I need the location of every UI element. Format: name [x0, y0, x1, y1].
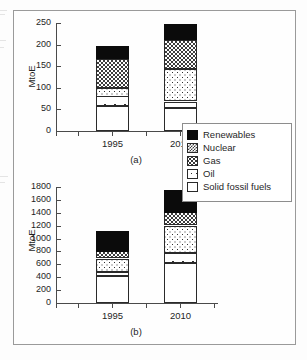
- chart-b-x-tick-label-2010: 2010: [151, 311, 211, 321]
- chart-b-y-tick: [57, 251, 61, 252]
- chart-b-segment-nuclear-2010: [164, 212, 197, 225]
- scan-artifact: [0, 14, 5, 15]
- chart-b-y-tick: [57, 213, 61, 214]
- legend-label-renewables: Renewables: [203, 130, 255, 140]
- chart-a-x-tick: [78, 132, 79, 136]
- chart-b-x-tick: [112, 304, 113, 308]
- chart-a-y-tick-label: 50: [15, 104, 51, 113]
- chart-a-y-tick-label: 0: [15, 126, 51, 135]
- chart-a-bar-2010[interactable]: [164, 23, 197, 131]
- legend-item-solid[interactable]: Solid fossil fuels: [187, 180, 286, 193]
- chart-b-caption: (b): [56, 326, 216, 337]
- chart-b-segment-gas-2010: [164, 226, 197, 253]
- scan-artifact: [0, 40, 6, 41]
- sparse-dot-swatch: [187, 169, 198, 179]
- white-empty-swatch: [187, 182, 198, 192]
- chart-a-segment-solid-1995: [96, 106, 129, 131]
- chart-a-segment-oil-1995: [96, 96, 129, 106]
- chart-a-segment-gas-1995: [96, 88, 129, 97]
- dense-checker-swatch: [187, 143, 198, 153]
- chart-b-x-tick: [78, 304, 79, 308]
- chart-b-y-tick: [57, 290, 61, 291]
- chart-a-y-tick-label: 200: [15, 40, 51, 49]
- chart-a-segment-nuclear-2010: [164, 40, 197, 69]
- chart-b-segment-solid-1995: [96, 276, 129, 303]
- chart-b-x-tick: [180, 304, 181, 308]
- chart-a-segment-oil-2010: [164, 102, 197, 108]
- chart-a-plot-area: 05010015020025019952010: [56, 23, 216, 131]
- chart-a-y-tick: [57, 88, 61, 89]
- chart-b-y-tick-label: 1800: [15, 182, 51, 191]
- chart-a-segment-renewables-1995: [96, 46, 129, 59]
- chart-a-x-tick: [146, 132, 147, 136]
- chart-a-y-tick-label: 150: [15, 61, 51, 70]
- chart-b-y-tick-label: 200: [15, 285, 51, 294]
- chart-b-x-tick-label-1995: 1995: [83, 311, 143, 321]
- legend-label-solid: Solid fossil fuels: [203, 182, 271, 192]
- chart-b-plot-area: 0200400600800100012001400160018001995201…: [56, 187, 216, 303]
- chart-b-segment-oil-2010: [164, 253, 197, 263]
- chart-a-y-tick: [57, 66, 61, 67]
- chart-a-segment-nuclear-1995: [96, 59, 129, 88]
- dot-grid-swatch: [187, 156, 198, 166]
- chart-a-segment-renewables-2010: [164, 24, 197, 40]
- chart-a-y-tick: [57, 23, 61, 24]
- chart-b-y-tick-label: 800: [15, 246, 51, 255]
- chart-b-y-tick-label: 1200: [15, 221, 51, 230]
- chart-a-y-tick-label: 100: [15, 83, 51, 92]
- chart-b-segment-renewables-1995: [96, 231, 129, 252]
- chart-a-x-tick: [112, 132, 113, 136]
- chart-a-y-tick: [57, 45, 61, 46]
- legend-label-gas: Gas: [203, 156, 220, 166]
- black-solid-swatch: [187, 130, 198, 140]
- chart-b-x-axis: [56, 303, 218, 304]
- chart-b-y-tick-label: 1400: [15, 208, 51, 217]
- chart-b-segment-oil-1995: [96, 272, 129, 276]
- chart-b-y-tick: [57, 277, 61, 278]
- legend-label-nuclear: Nuclear: [203, 143, 236, 153]
- chart-b: MtoE 02004006008001000120014001600180019…: [14, 179, 297, 346]
- chart-b-y-tick: [57, 264, 61, 265]
- chart-a-x-tick: [180, 132, 181, 136]
- chart-b-bar-1995[interactable]: [96, 187, 129, 303]
- scan-artifact: [0, 10, 7, 11]
- legend-item-oil[interactable]: Oil: [187, 167, 286, 180]
- chart-b-segment-gas-1995: [96, 259, 129, 272]
- chart-b-segment-nuclear-1995: [96, 251, 129, 258]
- legend-item-gas[interactable]: Gas: [187, 154, 286, 167]
- scan-artifact: [0, 182, 5, 183]
- chart-b-y-tick: [57, 187, 61, 188]
- chart-a-y-tick-label: 250: [15, 18, 51, 27]
- chart-a-y-tick: [57, 131, 61, 132]
- chart-a-bar-1995[interactable]: [96, 23, 129, 131]
- scan-artifact: [0, 176, 8, 177]
- chart-b-y-tick-label: 1000: [15, 234, 51, 243]
- chart-a-y-axis: [56, 23, 57, 131]
- chart-a-x-tick: [56, 132, 57, 136]
- chart-a-x-tick-label-1995: 1995: [83, 139, 143, 149]
- chart-b-y-tick: [57, 239, 61, 240]
- legend-item-renewables[interactable]: Renewables: [187, 128, 286, 141]
- chart-b-y-tick: [57, 226, 61, 227]
- scan-artifact: [0, 47, 4, 48]
- chart-b-y-tick: [57, 303, 61, 304]
- chart-b-x-tick: [146, 304, 147, 308]
- chart-b-y-tick: [57, 200, 61, 201]
- chart-b-y-tick-label: 0: [15, 298, 51, 307]
- legend-label-oil: Oil: [203, 169, 215, 179]
- chart-b-y-tick-label: 600: [15, 259, 51, 268]
- chart-a-segment-gas-2010: [164, 69, 197, 101]
- chart-b-bar-2010[interactable]: [164, 187, 197, 303]
- legend-item-nuclear[interactable]: Nuclear: [187, 141, 286, 154]
- chart-b-y-axis: [56, 187, 57, 303]
- chart-b-x-tick: [56, 304, 57, 308]
- chart-b-y-tick-label: 400: [15, 272, 51, 281]
- figure-frame: MtoE 05010015020025019952010 (a) MtoE 02…: [13, 10, 296, 345]
- chart-b-y-tick-label: 1600: [15, 195, 51, 204]
- chart-b-segment-solid-2010: [164, 263, 197, 303]
- legend: RenewablesNuclearGasOilSolid fossil fuel…: [182, 123, 292, 202]
- chart-b-x-tick: [214, 304, 215, 308]
- figure-page: MtoE 05010015020025019952010 (a) MtoE 02…: [0, 0, 307, 360]
- chart-a-y-tick: [57, 109, 61, 110]
